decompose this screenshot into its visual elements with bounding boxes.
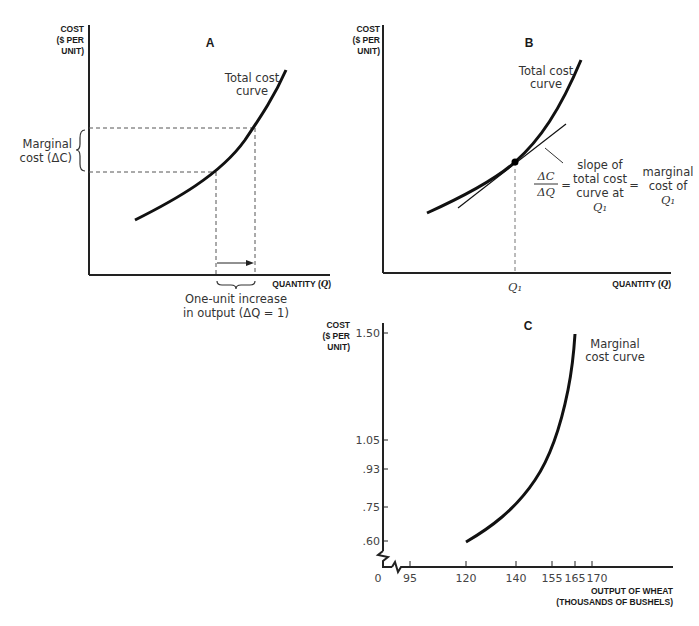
svg-text:.75: .75 — [363, 501, 381, 514]
arrowhead-icon — [246, 260, 254, 266]
panel-a-marginal-label-1: Marginal — [22, 137, 72, 151]
panel-b-leader-line — [545, 148, 563, 163]
panel-a-marginal-brace — [76, 130, 85, 171]
panel-c-marginal-cost-curve — [466, 334, 575, 542]
panel-b-y-label-2: ($ PER — [353, 35, 380, 45]
panel-c-y-label-3: UNIT) — [327, 342, 350, 352]
panel-b-x-label: QUANTITY (Q) — [612, 279, 671, 289]
panel-a: COST ($ PER UNIT) A QUANTITY (Q) Total c… — [20, 24, 332, 320]
panel-b-slope-label-2: total cost — [573, 172, 627, 186]
panel-b-title: B — [525, 36, 534, 50]
panel-b-equals-1: = — [561, 178, 571, 192]
svg-text:170: 170 — [587, 572, 608, 585]
panel-b-slope-label-3: curve at — [576, 186, 624, 200]
panel-a-x-label: QUANTITY (Q) — [272, 279, 331, 289]
panel-a-increase-label-2: in output (ΔQ = 1) — [183, 306, 289, 320]
panel-a-curve-label-2: curve — [236, 84, 268, 98]
svg-text:120: 120 — [456, 572, 477, 585]
panel-a-y-label-1: COST — [60, 24, 84, 34]
panel-c-y-axis — [378, 323, 392, 567]
panel-b-mc-label-2: cost of — [649, 179, 689, 193]
panel-b-slope-label-1: slope of — [577, 158, 623, 172]
panel-b-fraction-den: ΔQ — [536, 185, 555, 199]
panel-b-tangent-point — [512, 159, 519, 166]
panel-b-equals-2: = — [629, 178, 639, 192]
panel-c-x-label-1: OUTPUT OF WHEAT — [591, 586, 674, 596]
svg-text:140: 140 — [506, 572, 527, 585]
panel-a-y-label-2: ($ PER — [57, 35, 84, 45]
panel-b-curve-label-2: curve — [530, 77, 562, 91]
panel-c-y-tick-labels: 1.50 1.05 .93 .75 .60 — [356, 327, 381, 548]
panel-a-marginal-label-2: cost (ΔC) — [20, 151, 72, 165]
panel-b-y-label-3: UNIT) — [357, 46, 380, 56]
panel-c-x-tick-labels: 0 95 120 140 155 165 170 — [375, 572, 608, 585]
panel-b-mc-label-1: marginal — [643, 165, 694, 179]
panel-a-y-label-3: UNIT) — [61, 46, 84, 56]
svg-text:0: 0 — [375, 572, 382, 585]
figure-canvas: COST ($ PER UNIT) A QUANTITY (Q) Total c… — [0, 0, 699, 626]
svg-text:165: 165 — [565, 572, 586, 585]
panel-c-y-label-2: ($ PER — [323, 331, 350, 341]
panel-a-title: A — [206, 36, 215, 50]
svg-text:155: 155 — [542, 572, 563, 585]
svg-text:.93: .93 — [363, 463, 381, 476]
svg-text:1.05: 1.05 — [356, 434, 381, 447]
panel-b-mc-label-3: Q₁ — [661, 193, 675, 207]
panel-c-x-label-2: (THOUSANDS OF BUSHELS) — [556, 597, 673, 607]
panel-b: COST ($ PER UNIT) B Total cost curve Q₁ … — [353, 24, 694, 294]
panel-c-title: C — [524, 319, 533, 333]
svg-text:1.50: 1.50 — [356, 327, 381, 340]
svg-text:.60: .60 — [363, 535, 381, 548]
panel-c-curve-label-1: Marginal — [590, 337, 640, 351]
panel-b-y-label-1: COST — [356, 24, 380, 34]
panel-b-curve-label-1: Total cost — [518, 64, 574, 78]
panel-c: COST ($ PER UNIT) C 1.50 1.05 .93 .75 .6… — [323, 319, 674, 607]
panel-a-increase-label-1: One-unit increase — [185, 292, 287, 306]
panel-a-increase-brace — [217, 281, 255, 289]
panel-b-q1-tick: Q₁ — [508, 280, 522, 294]
panel-a-curve-label-1: Total cost — [224, 71, 280, 85]
panel-c-curve-label-2: cost curve — [585, 350, 645, 364]
panel-c-y-label-1: COST — [326, 320, 350, 330]
panel-b-slope-label-4: Q₁ — [593, 200, 607, 214]
panel-b-fraction-num: ΔC — [536, 169, 554, 183]
svg-text:95: 95 — [403, 572, 417, 585]
panel-c-x-axis — [392, 562, 673, 572]
